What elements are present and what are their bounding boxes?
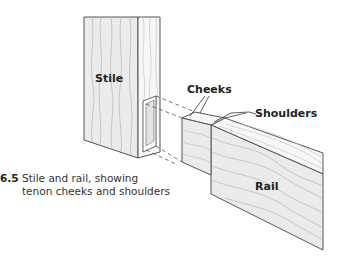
figure-caption: 6.5Stile and rail, showing tenon cheeks … — [22, 172, 170, 198]
rail-label: Rail — [255, 180, 278, 193]
shoulders-label: Shoulders — [255, 107, 318, 120]
cheeks-label: Cheeks — [187, 83, 232, 96]
rail — [182, 112, 323, 250]
figure-number: 6.5 — [0, 172, 22, 185]
stile-and-rail-diagram: Stile Rail Cheeks Shoulders — [0, 0, 340, 258]
caption-line-2: tenon cheeks and shoulders — [22, 185, 170, 198]
stile-label: Stile — [95, 72, 123, 85]
caption-line-1: Stile and rail, showing — [22, 172, 138, 184]
stile — [84, 17, 160, 158]
